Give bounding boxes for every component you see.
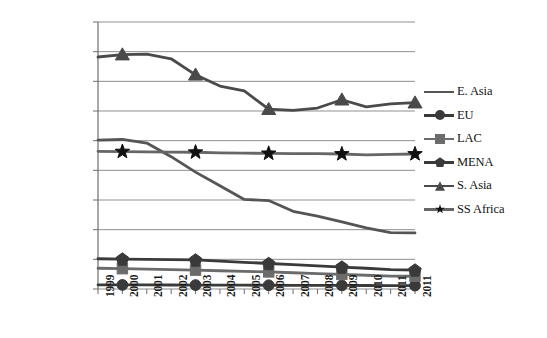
x-axis-tick-label: 2006: [274, 275, 286, 297]
x-axis-tick-label: 2007: [299, 275, 311, 297]
legend-item[interactable]: SS Africa: [424, 198, 547, 222]
x-axis-tick-label: 2011: [421, 275, 433, 297]
x-axis-tick-label: 2008: [323, 275, 335, 297]
line-chart: 4500000040000000350000003000000025000000…: [0, 0, 547, 338]
x-axis-tick-label: 2011: [396, 275, 408, 297]
x-axis-tick-label: 2009: [347, 275, 359, 297]
legend-item[interactable]: E. Asia: [424, 80, 547, 104]
legend-key: [424, 179, 454, 193]
x-axis-tick-label: 2000: [128, 275, 140, 297]
legend-item-label: MENA: [457, 155, 493, 170]
legend-item-label: E. Asia: [457, 84, 492, 99]
x-axis-tick-label: 2005: [250, 275, 262, 297]
legend-item-label: SS Africa: [457, 202, 504, 217]
legend-key: [424, 132, 454, 146]
x-axis-tick-label: 2010: [372, 275, 384, 297]
legend-line-swatch: [424, 91, 454, 94]
legend-item-label: EU: [457, 108, 473, 123]
x-axis-tick-label: 2004: [225, 275, 237, 297]
legend-item[interactable]: MENA: [424, 151, 547, 175]
legend-item[interactable]: LAC: [424, 127, 547, 151]
legend-key: [424, 85, 454, 99]
chart-legend: E. AsiaEULACMENAS. AsiaSS Africa: [424, 80, 547, 221]
legend-key: [424, 108, 454, 122]
legend-marker-circle-icon: [435, 110, 445, 120]
x-axis-tick-label: 2002: [177, 275, 189, 297]
legend-item-label: LAC: [457, 131, 482, 146]
legend-item-label: S. Asia: [457, 178, 492, 193]
x-axis-tick-label: 1999: [104, 275, 116, 297]
legend-marker-square-icon: [435, 134, 445, 144]
legend-marker-diamond-icon: [435, 157, 445, 167]
legend-item[interactable]: S. Asia: [424, 174, 547, 198]
legend-key: [424, 202, 454, 216]
legend-key: [424, 155, 454, 169]
x-axis-tick-label: 2001: [152, 275, 164, 297]
x-axis-tick-label: 2003: [201, 275, 213, 297]
legend-item[interactable]: EU: [424, 104, 547, 128]
